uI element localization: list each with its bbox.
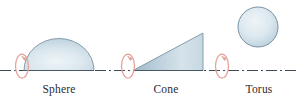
figure-label-torus: Torus [245, 83, 272, 95]
cone-generating-region [133, 33, 203, 71]
rotation-ellipse [122, 54, 135, 78]
rotation-arrow-icon-torus [216, 54, 229, 78]
solids-of-revolution-figure: Sphere Cone Torus [0, 0, 297, 102]
panel-sphere [16, 39, 95, 79]
panel-cone [122, 33, 204, 78]
torus-generating-region [238, 7, 278, 47]
sphere-generating-region [24, 39, 94, 71]
figure-label-cone: Cone [153, 83, 178, 95]
panel-torus [216, 7, 279, 78]
rotation-ellipse [216, 54, 229, 78]
rotation-arrow-icon-cone [122, 54, 135, 78]
figure-label-sphere: Sphere [42, 83, 75, 95]
